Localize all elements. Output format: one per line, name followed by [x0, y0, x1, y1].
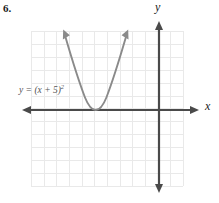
axes	[22, 21, 199, 193]
equation-label: y = (x + 5)2	[19, 83, 64, 95]
equation-label-exponent: 2	[61, 83, 64, 90]
graph-figure: 6.	[0, 0, 219, 203]
y-axis-top-arrow	[155, 21, 163, 30]
problem-number: 6.	[3, 2, 11, 14]
equation-label-base: y = (x + 5)	[19, 85, 61, 95]
x-axis-left-arrow	[22, 106, 31, 114]
y-axis-label: y	[155, 0, 160, 15]
x-axis-label: x	[205, 99, 210, 114]
y-axis-bottom-arrow	[155, 184, 163, 193]
x-axis-right-arrow	[190, 106, 199, 114]
grid-lines	[31, 31, 184, 186]
coordinate-plane-svg	[0, 0, 219, 203]
